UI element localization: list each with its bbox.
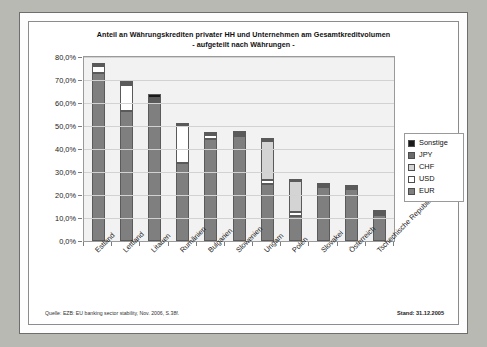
gridline [84, 172, 394, 173]
y-axis-tick [78, 149, 82, 150]
bar-segment-chf [289, 181, 302, 212]
bar-segment-sonstige [373, 210, 386, 212]
y-axis-tick-label: 10,0% [55, 214, 76, 223]
bar-segment-usd [92, 66, 105, 73]
y-axis-tick-label: 40,0% [55, 145, 76, 154]
y-axis-tick [78, 218, 82, 219]
legend-label: Sonstige [419, 139, 448, 146]
chart-inner-frame: Anteil an Währungskrediten privater HH u… [28, 21, 459, 325]
bar-segment-sonstige [261, 138, 274, 140]
source-note: Quelle: EZB: EU banking sector stability… [45, 310, 179, 316]
y-axis-tick-label: 30,0% [55, 168, 76, 177]
y-axis-tick [78, 172, 82, 173]
bar-segment-usd [120, 85, 133, 111]
legend-swatch-jpy-icon [408, 152, 415, 159]
bar-segment-eur [345, 189, 358, 241]
y-axis-tick-label: 20,0% [55, 191, 76, 200]
legend-item-usd[interactable]: USD [408, 173, 459, 185]
legend-label: JPY [419, 151, 433, 158]
bar-segment-sonstige [345, 185, 358, 187]
bar-segment-sonstige [204, 132, 217, 134]
y-axis-labels: 0,0%10,0%20,0%30,0%40,0%50,0%60,0%70,0%8… [29, 56, 81, 242]
bar-segment-usd [176, 126, 189, 163]
legend-swatch-usd-icon [408, 176, 415, 183]
date-note: Stand: 31.12.2005 [397, 310, 444, 316]
chart-screenshot: Anteil an Währungskrediten privater HH u… [0, 0, 487, 347]
bar-segment-eur [233, 136, 246, 241]
chart-title-block: Anteil an Währungskrediten privater HH u… [29, 30, 458, 49]
chart-legend: SonstigeJPYCHFUSDEUR [404, 133, 464, 202]
legend-swatch-chf-icon [408, 164, 415, 171]
bar-segment-eur [176, 163, 189, 241]
gridline [84, 57, 394, 58]
bar-segment-eur [92, 73, 105, 241]
bar-segment-eur [261, 184, 274, 242]
y-axis-tick-label: 70,0% [55, 76, 76, 85]
legend-label: USD [419, 175, 435, 182]
y-axis-tick [78, 241, 82, 242]
bar-segment-sonstige [92, 63, 105, 65]
legend-swatch-sonstige-icon [408, 140, 415, 147]
legend-label: CHF [419, 163, 434, 170]
y-axis-tick-label: 60,0% [55, 99, 76, 108]
chart-subtitle: - aufgeteilt nach Währungen - [29, 40, 458, 50]
gridline [84, 126, 394, 127]
y-axis-tick [78, 103, 82, 104]
gridline [84, 218, 394, 219]
gridline [84, 103, 394, 104]
gridline [84, 149, 394, 150]
bar-segment-usd [233, 134, 246, 136]
bar-segment-sonstige [233, 131, 246, 133]
bar-segment-usd [148, 100, 161, 102]
bar-segment-sonstige [289, 179, 302, 181]
y-axis-tick-label: 80,0% [55, 53, 76, 62]
legend-item-eur[interactable]: EUR [408, 185, 459, 197]
bar-segment-sonstige [148, 94, 161, 98]
bar-segment-usd [289, 212, 302, 215]
bar-segment-chf [261, 141, 274, 180]
y-axis-tick [78, 195, 82, 196]
bar-segment-sonstige [317, 183, 330, 185]
legend-item-chf[interactable]: CHF [408, 161, 459, 173]
y-axis-tick [78, 126, 82, 127]
bar-segment-sonstige [176, 123, 189, 125]
bar-segment-usd [204, 135, 217, 138]
bar-segment-usd [261, 180, 274, 183]
y-axis-tick [78, 57, 82, 58]
bar-segment-eur [204, 139, 217, 241]
legend-swatch-eur-icon [408, 188, 415, 195]
gridline [84, 80, 394, 81]
legend-item-jpy[interactable]: JPY [408, 149, 459, 161]
y-axis-tick-label: 50,0% [55, 122, 76, 131]
plot-area [83, 56, 395, 242]
legend-item-sonstige[interactable]: Sonstige [408, 137, 459, 149]
y-axis-tick [78, 80, 82, 81]
bar-segment-eur [120, 111, 133, 241]
chart-sheet: Anteil an Währungskrediten privater HH u… [19, 12, 468, 334]
chart-title: Anteil an Währungskrediten privater HH u… [29, 30, 458, 40]
gridline [84, 195, 394, 196]
legend-label: EUR [419, 187, 435, 194]
bar-segment-sonstige [120, 81, 133, 83]
